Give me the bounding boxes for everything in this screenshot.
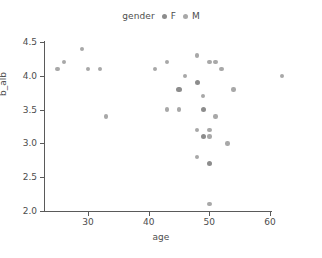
data-point-m [55, 67, 59, 71]
data-point-m [207, 128, 211, 132]
data-point-m [219, 67, 223, 71]
x-axis-spine [44, 211, 272, 212]
y-tick-mark [40, 143, 44, 144]
data-point-f [201, 134, 206, 139]
x-tick-label: 30 [73, 218, 103, 227]
legend-entry-f[interactable]: F [162, 11, 176, 21]
data-point-m [207, 60, 211, 64]
x-tick-label: 60 [255, 218, 285, 227]
data-point-f [195, 80, 200, 85]
data-point-m [280, 74, 284, 78]
data-point-m [213, 114, 217, 118]
legend-swatch-m-icon [183, 14, 188, 19]
x-tick-mark [149, 212, 150, 216]
plot-area [45, 38, 270, 211]
y-tick-mark [40, 177, 44, 178]
scatter-chart: gender F M 4.54.03.53.02.52.0 30405060 b… [0, 0, 322, 258]
legend-entry-m[interactable]: M [183, 11, 200, 21]
y-tick-mark [40, 42, 44, 43]
data-point-m [177, 107, 181, 111]
data-point-m [80, 47, 84, 51]
x-tick-label: 40 [134, 218, 164, 227]
x-tick-label: 50 [194, 218, 224, 227]
y-tick-label: 4.0 [3, 72, 37, 81]
y-tick-label: 3.5 [3, 106, 37, 115]
y-tick-mark [40, 76, 44, 77]
data-point-m [207, 202, 211, 206]
data-point-m [225, 141, 229, 145]
data-point-f [201, 107, 206, 112]
data-point-f [176, 87, 181, 92]
data-point-m [165, 107, 169, 111]
legend-swatch-f-icon [162, 14, 167, 19]
y-tick-label: 2.0 [3, 207, 37, 216]
y-tick-mark [40, 211, 44, 212]
legend-label-f: F [171, 11, 176, 21]
legend-title: gender [122, 11, 155, 21]
y-axis-label: b_alb [0, 72, 8, 96]
data-point-m [153, 67, 157, 71]
legend-label-m: M [192, 11, 200, 21]
chart-legend: gender F M [0, 8, 322, 24]
x-tick-mark [209, 212, 210, 216]
y-tick-label: 4.5 [3, 38, 37, 47]
x-tick-mark [88, 212, 89, 216]
data-point-m [231, 87, 235, 91]
y-tick-label: 2.5 [3, 173, 37, 182]
x-axis-label: age [0, 232, 322, 242]
x-tick-mark [270, 212, 271, 216]
data-point-m [104, 114, 108, 118]
data-point-m [207, 134, 211, 138]
y-tick-label: 3.0 [3, 139, 37, 148]
y-tick-mark [40, 110, 44, 111]
